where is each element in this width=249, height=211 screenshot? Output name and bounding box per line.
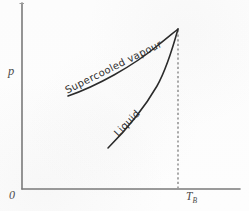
- x-axis-label: TB: [186, 191, 197, 205]
- x-axis-label-subscript: B: [192, 196, 197, 205]
- y-axis-label: p: [8, 65, 14, 78]
- origin-label: 0: [9, 189, 15, 201]
- phase-diagram-figure: 0 p TB Supercooled vapour Liquid: [0, 0, 249, 211]
- plot-canvas: [0, 0, 249, 211]
